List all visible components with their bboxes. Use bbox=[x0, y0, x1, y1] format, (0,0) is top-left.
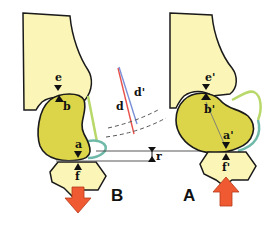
label-e: e bbox=[55, 71, 62, 84]
panel-label-b: B bbox=[111, 186, 123, 205]
label-d: d bbox=[116, 100, 124, 113]
label-b: b bbox=[63, 100, 71, 113]
panel-b: e b a f B bbox=[23, 13, 123, 213]
label-d-prime: d' bbox=[134, 86, 145, 99]
r-marker-bottom bbox=[148, 156, 156, 162]
ligament-green-b bbox=[88, 96, 97, 142]
joint-diagram: e b a f B d d' r bbox=[0, 0, 279, 228]
label-a: a bbox=[75, 138, 82, 151]
label-b-prime: b' bbox=[204, 103, 215, 116]
label-r: r bbox=[156, 150, 162, 163]
panel-a: e' b' a' f' A bbox=[170, 13, 261, 206]
label-f-prime: f' bbox=[222, 161, 230, 174]
label-a-prime: a' bbox=[223, 129, 234, 142]
panel-label-a: A bbox=[183, 186, 195, 205]
label-e-prime: e' bbox=[205, 71, 215, 84]
